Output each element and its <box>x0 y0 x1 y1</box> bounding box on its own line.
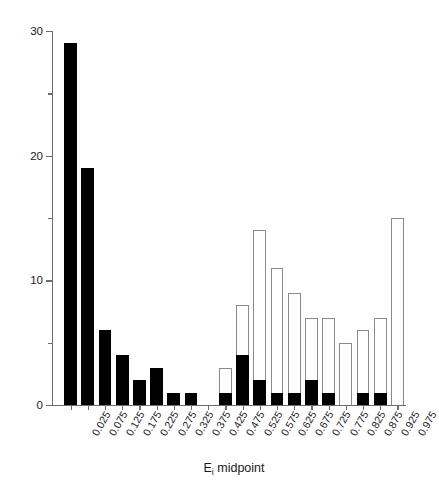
bar-segment-filled <box>253 380 266 405</box>
bar-segment-filled <box>357 393 370 405</box>
bar <box>253 230 266 405</box>
bar-segment-filled <box>322 393 335 405</box>
y-tick-label: 20 <box>30 150 43 162</box>
y-tick-major <box>46 405 52 406</box>
bar <box>185 393 198 405</box>
y-tick-label: 0 <box>37 399 43 411</box>
bar-segment-filled <box>271 393 284 405</box>
bar <box>288 293 301 405</box>
bar-segment-open <box>253 230 266 380</box>
bar-segment-filled <box>305 380 318 405</box>
bar-segment-filled <box>236 355 249 405</box>
y-tick-minor <box>48 93 52 94</box>
bar <box>116 355 129 405</box>
bar-segment-open <box>374 318 387 393</box>
bar <box>133 380 146 405</box>
bar-segment-filled <box>99 330 112 405</box>
bar-segment-open <box>391 218 404 405</box>
plot-area: 0102030 <box>62 31 406 405</box>
bar <box>150 368 163 405</box>
bar-group <box>62 31 406 405</box>
y-tick-major <box>46 156 52 157</box>
bar <box>167 393 180 405</box>
y-tick-label: 30 <box>30 25 43 37</box>
bar-segment-filled <box>133 380 146 405</box>
y-tick-major <box>46 31 52 32</box>
bar-segment-open <box>322 318 335 393</box>
bar-segment-filled <box>81 168 94 405</box>
x-axis-title-subscript: i <box>212 467 214 477</box>
bar-segment-filled <box>64 43 77 405</box>
bar-segment-open <box>219 368 232 393</box>
x-axis-title-base: E <box>203 461 211 475</box>
bar <box>391 218 404 405</box>
bar-segment-open <box>271 268 284 393</box>
bar-segment-filled <box>150 368 163 405</box>
y-tick-minor <box>48 218 52 219</box>
bar-segment-open <box>288 293 301 393</box>
y-axis-title: Frequency <box>0 0 30 484</box>
bar-segment-open <box>339 343 352 405</box>
bar-segment-filled <box>185 393 198 405</box>
bar <box>305 318 318 405</box>
y-tick-label: 10 <box>30 274 43 286</box>
bar <box>236 305 249 405</box>
bar <box>64 43 77 405</box>
bar-segment-open <box>236 305 249 355</box>
bar <box>339 343 352 405</box>
y-tick-major <box>46 280 52 281</box>
y-axis-line <box>52 31 53 405</box>
bar <box>374 318 387 405</box>
bar <box>357 330 370 405</box>
x-axis-title: Ei midpoint <box>62 461 406 475</box>
bar <box>219 368 232 405</box>
x-axis-tick-labels: 0.0250.0750.1250.1750.2250.2750.3250.375… <box>62 409 406 461</box>
bar <box>81 168 94 405</box>
bar-segment-open <box>357 330 370 392</box>
bar-segment-filled <box>374 393 387 405</box>
y-tick-minor <box>48 343 52 344</box>
bar <box>322 318 335 405</box>
bar-segment-filled <box>116 355 129 405</box>
bar <box>99 330 112 405</box>
bar-segment-filled <box>288 393 301 405</box>
x-axis-title-rest: midpoint <box>214 461 265 475</box>
bar-segment-filled <box>167 393 180 405</box>
bar-segment-open <box>305 318 318 380</box>
bar <box>271 268 284 405</box>
bar-segment-filled <box>219 393 232 405</box>
